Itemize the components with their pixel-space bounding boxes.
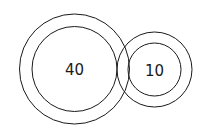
small-circle-group: 10: [117, 32, 192, 107]
large-circle-label: 40: [65, 61, 84, 79]
large-circle-group: 40: [20, 14, 130, 124]
circle-diagram: 40 10: [0, 0, 205, 135]
small-circle-label: 10: [145, 62, 164, 80]
